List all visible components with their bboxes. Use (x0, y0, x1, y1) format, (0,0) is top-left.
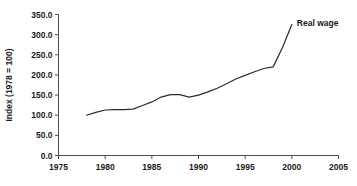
y-tick-label: 250.0 (31, 50, 53, 60)
y-tick-label: 150.0 (31, 90, 53, 100)
x-tick-label: 1985 (142, 162, 161, 172)
x-tick-label: 2000 (282, 162, 301, 172)
x-tick-label: 1995 (236, 162, 255, 172)
line-chart: 0.050.0100.0150.0200.0250.0300.0350.0 19… (0, 0, 357, 186)
y-tick-label: 0.0 (41, 151, 53, 161)
x-tick-label: 1990 (189, 162, 208, 172)
chart-figure: 0.050.0100.0150.0200.0250.0300.0350.0 19… (0, 0, 357, 186)
y-tick-label: 100.0 (31, 110, 53, 120)
series-annotations: Real wage (297, 18, 339, 28)
x-tick-label: 2005 (329, 162, 348, 172)
y-tick-label: 350.0 (31, 10, 53, 20)
y-tick-label: 50.0 (36, 130, 53, 140)
plot-background (0, 0, 357, 186)
x-tick-label: 1980 (96, 162, 115, 172)
y-tick-label: 300.0 (31, 30, 53, 40)
series-label-real-wage: Real wage (297, 18, 339, 28)
y-tick-label: 200.0 (31, 70, 53, 80)
x-tick-label: 1975 (49, 162, 68, 172)
y-axis-title: Index (1978 = 100) (4, 48, 14, 121)
